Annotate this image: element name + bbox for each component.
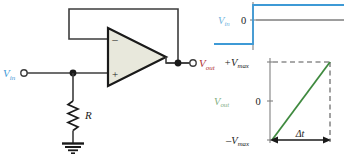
opamp-minus-sign: – (111, 33, 118, 45)
circuit-vout-subscript: out (206, 64, 216, 72)
output-chart-ylabel: Vout (214, 96, 230, 108)
input-terminal (21, 70, 27, 76)
output-chart-ytick-minus-vmax: –Vmax (225, 135, 249, 147)
input-chart-ylabel: Vin (218, 15, 230, 27)
output-waveform-chart: Vout 0 +Vmax –Vmax Δt (214, 57, 331, 147)
minus-vmax-subscript: max (238, 140, 249, 147)
input-step-waveform (214, 5, 344, 44)
circuit-vin-label: Vin (3, 67, 16, 82)
ground-symbol (62, 144, 84, 154)
circuit-vout-label: Vout (199, 57, 216, 72)
circuit-and-waveforms-figure: – + Vin Vout R Vin 0 (0, 0, 344, 160)
output-terminal (190, 60, 196, 66)
output-chart-ytick-plus-vmax: +Vmax (224, 57, 249, 69)
input-chart-ylabel-subscript: in (224, 20, 230, 27)
input-chart-ytick-zero: 0 (241, 15, 246, 26)
output-chart-ytick-zero: 0 (255, 96, 260, 107)
resistor-symbol (68, 101, 78, 131)
output-chart-xlabel: Δt (295, 128, 305, 139)
resistor-label: R (84, 109, 92, 121)
opamp-plus-sign: + (112, 68, 118, 80)
output-node (175, 60, 182, 67)
circuit-vin-subscript: in (10, 74, 16, 82)
circuit-schematic: – + Vin Vout R (3, 9, 216, 153)
input-waveform-chart: Vin 0 (214, 2, 344, 50)
output-chart-ylabel-subscript: out (220, 101, 230, 108)
plus-vmax-subscript: max (238, 62, 249, 69)
